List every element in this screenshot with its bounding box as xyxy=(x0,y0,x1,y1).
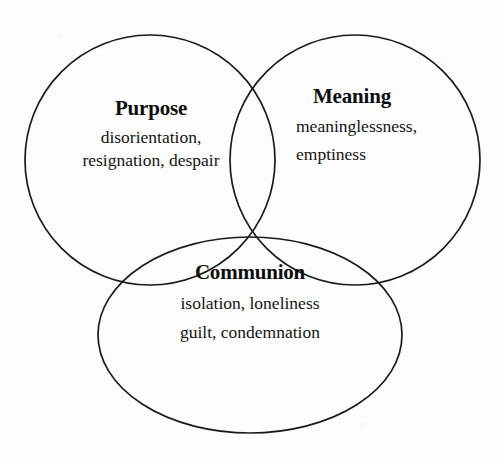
venn-diagram: Purpose disorientation, resignation, des… xyxy=(0,0,502,462)
set-heading-meaning: Meaning xyxy=(313,86,471,107)
set-line-purpose-1: disorientation, xyxy=(56,126,246,149)
venn-text-layer: Purpose disorientation, resignation, des… xyxy=(0,0,502,462)
set-line-communion-1: isolation, loneliness xyxy=(140,292,360,315)
set-line-communion-2: guilt, condemnation xyxy=(140,321,360,344)
set-heading-purpose: Purpose xyxy=(56,98,246,119)
set-label-meaning: Meaning meaninglessness, emptiness xyxy=(296,86,471,172)
set-line-meaning-2: emptiness xyxy=(296,143,471,166)
set-heading-communion: Communion xyxy=(140,262,360,283)
set-line-meaning-1: meaninglessness, xyxy=(296,115,471,138)
set-label-communion: Communion isolation, loneliness guilt, c… xyxy=(140,262,360,351)
set-line-purpose-2: resignation, despair xyxy=(56,149,246,172)
set-label-purpose: Purpose disorientation, resignation, des… xyxy=(56,98,246,173)
